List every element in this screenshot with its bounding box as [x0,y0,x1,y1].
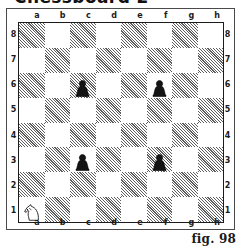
square-d5[interactable] [96,98,122,123]
figure-caption: fig. 98 [191,232,236,246]
square-d6[interactable] [96,73,122,98]
square-h6[interactable] [198,73,224,98]
square-e8[interactable] [121,23,147,48]
file-labels-bottom: a b c d e f g h [24,217,230,229]
square-b8[interactable] [45,23,71,48]
file-label-c-bottom: c [76,217,102,229]
file-label-h-bottom: h [204,217,230,229]
square-b7[interactable] [45,48,71,73]
square-h4[interactable] [198,123,224,148]
file-label-d-bottom: d [101,217,127,229]
file-label-h-top: h [204,10,230,22]
file-label-a-bottom: a [24,217,50,229]
square-c6[interactable] [70,73,96,98]
square-a6[interactable] [19,73,45,98]
square-c7[interactable] [70,48,96,73]
file-label-f-bottom: f [153,217,179,229]
square-a3[interactable] [19,147,45,172]
square-d7[interactable] [96,48,122,73]
square-d4[interactable] [96,123,122,148]
page-heading-text: Chessboard 2 [14,0,149,7]
square-f2[interactable] [147,172,173,197]
square-e4[interactable] [121,123,147,148]
file-labels-top: a b c d e f g h [24,10,230,22]
square-h3[interactable] [198,147,224,172]
square-f8[interactable] [147,23,173,48]
square-c8[interactable] [70,23,96,48]
square-b4[interactable] [45,123,71,148]
square-a5[interactable] [19,98,45,123]
file-label-f-top: f [153,10,179,22]
square-b2[interactable] [45,172,71,197]
square-a8[interactable] [19,23,45,48]
black-pawn-icon[interactable] [70,147,96,172]
square-b6[interactable] [45,73,71,98]
square-e3[interactable] [121,147,147,172]
file-label-c-top: c [76,10,102,22]
file-label-b-bottom: b [50,217,76,229]
square-h7[interactable] [198,48,224,73]
square-a4[interactable] [19,123,45,148]
square-h2[interactable] [198,172,224,197]
square-e6[interactable] [121,73,147,98]
black-pawn-icon[interactable] [147,147,173,172]
square-e7[interactable] [121,48,147,73]
square-g3[interactable] [172,147,198,172]
file-label-e-top: e [127,10,153,22]
square-c3[interactable] [70,147,96,172]
square-c5[interactable] [70,98,96,123]
square-b3[interactable] [45,147,71,172]
file-label-a-top: a [24,10,50,22]
chessboard[interactable] [18,22,224,223]
square-d2[interactable] [96,172,122,197]
file-label-e-bottom: e [127,217,153,229]
file-label-b-top: b [50,10,76,22]
square-g8[interactable] [172,23,198,48]
square-d3[interactable] [96,147,122,172]
square-h8[interactable] [198,23,224,48]
square-a7[interactable] [19,48,45,73]
square-g7[interactable] [172,48,198,73]
page-heading-clipped: Chessboard 2 [0,0,242,7]
black-pawn-icon[interactable] [70,73,96,98]
square-f3[interactable] [147,147,173,172]
square-g2[interactable] [172,172,198,197]
square-g6[interactable] [172,73,198,98]
black-pawn-icon[interactable] [147,73,173,98]
square-e5[interactable] [121,98,147,123]
file-label-g-bottom: g [179,217,205,229]
square-f4[interactable] [147,123,173,148]
square-f7[interactable] [147,48,173,73]
square-e2[interactable] [121,172,147,197]
square-g5[interactable] [172,98,198,123]
square-c4[interactable] [70,123,96,148]
square-c2[interactable] [70,172,96,197]
square-b5[interactable] [45,98,71,123]
square-g4[interactable] [172,123,198,148]
square-h5[interactable] [198,98,224,123]
square-f5[interactable] [147,98,173,123]
chess-diagram-frame: a b c d e f g h 8 7 6 5 4 3 2 1 8 7 6 5 … [6,8,235,230]
file-label-g-top: g [179,10,205,22]
square-d8[interactable] [96,23,122,48]
square-a2[interactable] [19,172,45,197]
file-label-d-top: d [101,10,127,22]
square-f6[interactable] [147,73,173,98]
